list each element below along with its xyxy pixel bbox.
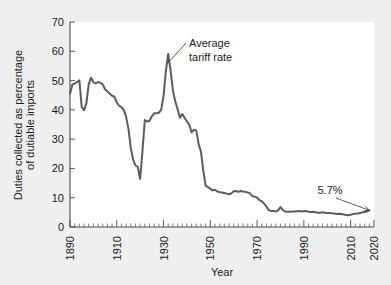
y-axis-tick-label: 30	[52, 133, 64, 145]
callout-label-line2: tariff rate	[189, 51, 232, 63]
x-axis-tick-label: 2010	[345, 236, 357, 260]
y-axis-title-line2: of dutiable imports	[24, 80, 36, 170]
callout-label-line1: Average	[189, 37, 230, 49]
y-axis-tick-label: 50	[52, 75, 64, 87]
tariff-rate-line-chart: 010203040506070 189019101930195019701990…	[0, 0, 391, 285]
x-axis-tick-label: 1990	[298, 236, 310, 260]
x-axis-tick-label: 1970	[251, 236, 263, 260]
final-value-label: 5.7%	[317, 184, 342, 196]
chart-figure: 010203040506070 189019101930195019701990…	[0, 0, 391, 285]
y-axis-tick-label: 70	[52, 16, 64, 28]
x-axis-title: Year	[211, 266, 234, 278]
x-axis-tick-label: 1950	[204, 236, 216, 260]
y-axis-tick-label: 20	[52, 162, 64, 174]
x-axis-tick-label: 1930	[158, 236, 170, 260]
y-axis-tick-label: 0	[58, 221, 64, 233]
x-axis-tick-label: 1890	[64, 236, 76, 260]
y-axis-tick-label: 10	[52, 192, 64, 204]
x-axis-tick-label: 1910	[111, 236, 123, 260]
y-axis-tick-label: 60	[52, 45, 64, 57]
y-axis-title-line1: Duties collected as percentage	[12, 50, 24, 200]
y-axis-tick-label: 40	[52, 104, 64, 116]
x-axis-tick-label: 2020	[368, 236, 380, 260]
